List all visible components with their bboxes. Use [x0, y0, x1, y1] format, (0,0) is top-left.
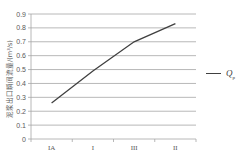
y-tick-label: 0.8 [16, 24, 26, 31]
y-axis-ticks: 00.10.20.30.40.50.60.70.80.9 [16, 11, 26, 143]
y-tick-label: 0.6 [16, 52, 26, 59]
x-category-label: I [92, 144, 95, 152]
y-tick-label: 0.1 [16, 122, 26, 129]
y-tick-label: 0 [22, 136, 26, 143]
y-tick-label: 0.7 [16, 38, 26, 45]
x-category-label: II [173, 144, 178, 152]
y-tick-label: 0.9 [16, 11, 26, 18]
y-tick-label: 0.3 [16, 94, 26, 101]
legend-line-icon [206, 73, 221, 74]
axes [31, 14, 196, 142]
legend: Qp [206, 68, 235, 80]
y-tick-label: 0.5 [16, 66, 26, 73]
series-line-qp [52, 24, 176, 103]
y-axis-label: 泥浆出口瞬间流量/(m³/s) [2, 20, 16, 138]
y-tick-label: 0.4 [16, 80, 26, 87]
y-tick-label: 0.2 [16, 108, 26, 115]
x-category-label: IA [48, 144, 55, 152]
x-category-label: III [131, 144, 139, 152]
x-axis-categories: IAIIIIII [48, 144, 178, 152]
legend-label: Qp [226, 68, 235, 80]
y-axis-label-text: 泥浆出口瞬间流量/(m³/s) [4, 40, 14, 118]
gridlines [28, 14, 196, 139]
